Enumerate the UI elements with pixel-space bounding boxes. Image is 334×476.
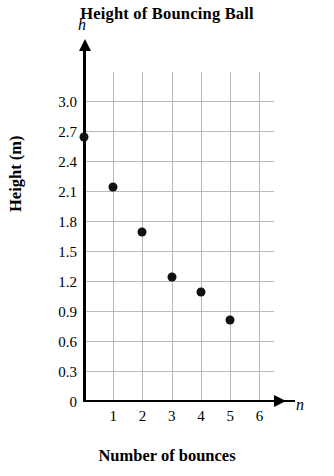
x-tick-label: 1 [109,408,117,425]
chart-figure: Height of Bouncing Ball Height (m) Numbe… [0,0,334,476]
gridline-horizontal [84,101,274,102]
x-axis-arrow-icon [274,395,286,407]
gridline-vertical [142,72,143,402]
x-tick-label: 6 [256,408,264,425]
gridline-horizontal [84,131,274,132]
y-tick-label: 3.0 [58,94,77,111]
gridline-horizontal [84,341,274,342]
y-tick-label: 1.2 [58,274,77,291]
gridline-horizontal [84,281,274,282]
data-point [196,287,205,296]
y-tick-label: 0.6 [58,334,77,351]
y-tick-label: 1.5 [58,244,77,261]
y-tick-label: 0.9 [58,304,77,321]
y-axis [83,50,86,402]
gridline-horizontal [84,371,274,372]
gridline-horizontal [84,221,274,222]
y-axis-arrow-icon [79,39,91,51]
x-tick-label: 3 [168,408,176,425]
gridline-vertical [172,72,173,402]
gridline-vertical [201,72,202,402]
x-axis-label: Number of bounces [0,446,334,466]
plot-area: h n 0 0.30.60.91.21.51.82.12.42.73.0 123… [84,72,274,402]
x-tick-label: 5 [226,408,234,425]
y-tick-label: 2.4 [58,154,77,171]
x-tick-label: 4 [197,408,205,425]
y-axis-variable: h [78,16,86,34]
data-point [80,132,89,141]
data-point [226,315,235,324]
data-point [167,272,176,281]
gridline-horizontal [84,191,274,192]
y-tick-label: 2.7 [58,124,77,141]
chart-title: Height of Bouncing Ball [0,4,334,24]
gridline-vertical [230,72,231,402]
gridline-horizontal [84,161,274,162]
y-tick-label: 1.8 [58,214,77,231]
y-tick-label: 2.1 [58,184,77,201]
x-tick-label: 2 [139,408,147,425]
y-tick-label: 0.3 [58,364,77,381]
gridline-vertical [113,72,114,402]
gridline-horizontal [84,311,274,312]
x-axis [83,400,295,403]
y-axis-label: Height (m) [6,135,26,212]
gridline-horizontal [84,251,274,252]
data-point [109,182,118,191]
x-axis-variable: n [296,396,304,414]
gridline-vertical [259,72,260,402]
origin-label: 0 [70,394,78,411]
data-point [138,227,147,236]
